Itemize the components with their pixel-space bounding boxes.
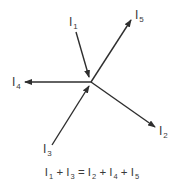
current-arrows bbox=[25, 20, 155, 145]
current-arrow-i5 bbox=[91, 20, 131, 82]
equation-operator: = bbox=[75, 166, 88, 178]
equation-term: I2 bbox=[88, 166, 96, 178]
equation-term: I5 bbox=[131, 166, 139, 178]
current-label-i2: I2 bbox=[159, 125, 168, 140]
equation-operator: + bbox=[118, 166, 131, 178]
current-letter: I bbox=[159, 124, 162, 138]
current-arrow-i2 bbox=[91, 82, 155, 127]
current-label-i4: I4 bbox=[12, 76, 21, 91]
equation-operator: + bbox=[96, 166, 109, 178]
current-subscript: 1 bbox=[73, 22, 77, 31]
current-arrow-i1 bbox=[76, 32, 89, 77]
current-subscript: 2 bbox=[163, 131, 167, 140]
equation-operator: + bbox=[53, 166, 66, 178]
current-subscript: 5 bbox=[139, 15, 143, 24]
current-letter: I bbox=[135, 8, 138, 22]
current-label-i5: I5 bbox=[135, 9, 144, 24]
current-label-i1: I1 bbox=[69, 16, 78, 31]
current-letter: I bbox=[43, 142, 46, 156]
equation-term: I3 bbox=[66, 166, 74, 178]
equation-term: I1 bbox=[45, 166, 53, 178]
current-letter: I bbox=[12, 75, 15, 89]
kcl-equation: I1 + I3 = I2 + I4 + I5 bbox=[0, 166, 184, 178]
junction-diagram bbox=[0, 0, 184, 191]
current-arrow-i3 bbox=[52, 86, 89, 145]
equation-term: I4 bbox=[109, 166, 117, 178]
current-label-i3: I3 bbox=[43, 143, 52, 158]
current-subscript: 4 bbox=[16, 82, 20, 91]
current-letter: I bbox=[69, 15, 72, 29]
current-subscript: 3 bbox=[47, 149, 51, 158]
